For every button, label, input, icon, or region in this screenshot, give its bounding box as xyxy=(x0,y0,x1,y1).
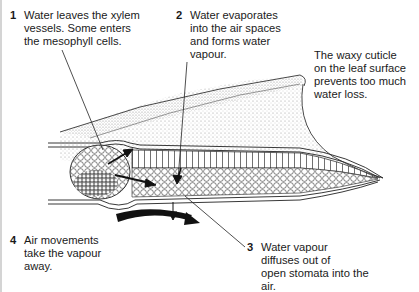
label-4-air-movements: 4 Air movements take the vapour away. xyxy=(10,234,101,273)
xylem-vessels xyxy=(74,170,118,196)
label-number: 3 xyxy=(247,241,253,254)
air-movement-arrow xyxy=(116,209,192,222)
label-text: Water evaporates into the air spaces and… xyxy=(176,9,281,61)
label-text: The waxy cuticle on the leaf surface pre… xyxy=(314,49,406,101)
label-waxy-cuticle: The waxy cuticle on the leaf surface pre… xyxy=(314,49,406,101)
label-3-vapour-diffuses: 3 Water vapour diffuses out of open stom… xyxy=(247,241,369,292)
air-movement-arrowhead xyxy=(184,212,200,225)
label-text: Water vapour diffuses out of open stomat… xyxy=(247,241,369,292)
label-text: Air movements take the vapour away. xyxy=(10,234,101,273)
label-number: 2 xyxy=(176,9,182,22)
label-text: Water leaves the xylem vessels. Some ent… xyxy=(10,9,140,48)
label-1-water-leaves-xylem: 1 Water leaves the xylem vessels. Some e… xyxy=(10,9,140,48)
label-2-water-evaporates: 2 Water evaporates into the air spaces a… xyxy=(176,9,281,61)
label-number: 1 xyxy=(10,9,16,22)
label-number: 4 xyxy=(10,234,16,247)
